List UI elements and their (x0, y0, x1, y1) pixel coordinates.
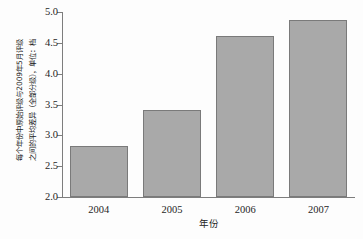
bar (289, 20, 347, 197)
y-tick: 2.0 (62, 197, 67, 198)
x-tick-label: 2004 (62, 203, 135, 216)
y-axis-title: 每个年份中原始评级与2009年5月评级 之间的平均差异（全部分级），单位：档 (0, 0, 30, 200)
y-tick-label: 5.0 (45, 5, 58, 18)
bar (70, 146, 128, 197)
y-tick: 4.5 (62, 43, 67, 44)
plot-area: 2.02.53.03.54.04.55.0 2004200520062007 (62, 12, 355, 198)
y-tick: 3.0 (62, 135, 67, 136)
y-tick-label: 4.0 (45, 67, 58, 80)
y-tick: 4.0 (62, 74, 67, 75)
bar (143, 110, 201, 197)
y-tick: 2.5 (62, 166, 67, 167)
y-tick-label: 3.0 (45, 128, 58, 141)
y-tick-label: 3.5 (45, 98, 58, 111)
y-tick-label: 2.0 (45, 190, 58, 203)
y-tick: 5.0 (62, 12, 67, 13)
y-tick-label: 4.5 (45, 36, 58, 49)
x-tick-label: 2006 (209, 203, 282, 216)
bar (216, 36, 274, 197)
y-tick: 3.5 (62, 105, 67, 106)
x-axis-line (62, 197, 355, 198)
x-tick-label: 2005 (135, 203, 208, 216)
x-tick-label: 2007 (282, 203, 355, 216)
x-axis-title: 年份 (62, 217, 355, 230)
y-tick-label: 2.5 (45, 159, 58, 172)
bar-chart-figure: 每个年份中原始评级与2009年5月评级 之间的平均差异（全部分级），单位：档 2… (0, 0, 363, 239)
